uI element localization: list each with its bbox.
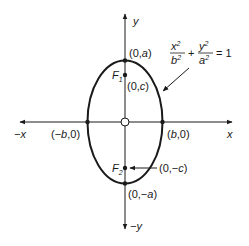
focus2-label: F2 <box>112 162 123 176</box>
top-vertex-dot <box>123 58 127 62</box>
bottom-vertex-dot <box>123 181 127 185</box>
neg-y-label: −y <box>130 220 143 232</box>
pos-y-label: y <box>132 15 140 27</box>
svg-text:+: + <box>188 47 194 59</box>
left-covertex-dot <box>85 120 89 124</box>
origin-marker <box>121 118 129 126</box>
ellipse-diagram: y −y x −x (0,a) (0,c) (0,−a) (0,−c) (b,0… <box>0 0 249 246</box>
svg-text:= 1: = 1 <box>216 47 232 59</box>
svg-text:b2: b2 <box>171 54 181 66</box>
bottom-vertex-label: (0,−a) <box>128 188 157 200</box>
focus2-dot <box>123 166 127 170</box>
right-covertex-label: (b,0) <box>167 128 190 140</box>
right-covertex-dot <box>160 120 164 124</box>
equation-pointer-arrow <box>163 68 189 91</box>
pos-x-label: x <box>226 128 233 140</box>
focus2-coord-label: (0,−c) <box>159 162 187 174</box>
left-covertex-label: (−b,0) <box>51 128 80 140</box>
svg-text:x2: x2 <box>170 40 181 52</box>
focus1-coord-label: (0,c) <box>127 80 149 92</box>
svg-text:a2: a2 <box>199 54 209 66</box>
focus1-dot <box>123 73 127 77</box>
top-vertex-label: (0,a) <box>129 47 152 59</box>
svg-text:y2: y2 <box>198 40 209 52</box>
focus1-label: F1 <box>112 69 123 83</box>
neg-x-label: −x <box>14 128 26 140</box>
ellipse-equation: x2 b2 + y2 a2 = 1 <box>170 40 232 66</box>
